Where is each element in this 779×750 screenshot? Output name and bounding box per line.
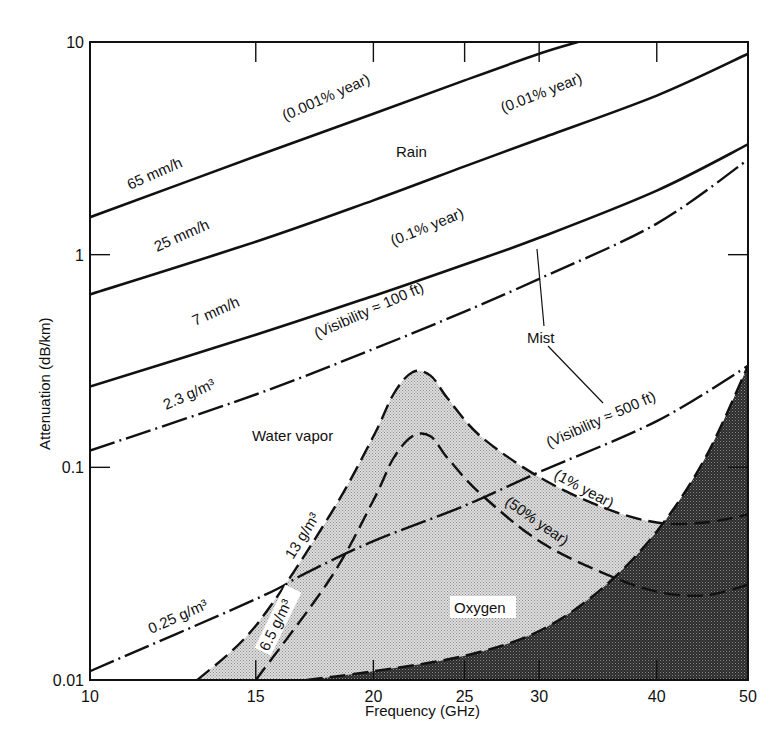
series-line-rain-0 <box>90 42 578 217</box>
label-visibility-500ft: (Visibility ≈ 500 ft) <box>543 387 658 451</box>
x-tick-label: 15 <box>247 688 265 705</box>
attenuation-chart: 101520253040500.010.1110 65 mm/h (0.001%… <box>0 0 779 750</box>
label-025gm3: 0.25 g/m³ <box>145 595 210 636</box>
y-tick-label: 10 <box>66 34 84 51</box>
x-tick-label: 40 <box>648 688 666 705</box>
label-rain: Rain <box>396 143 427 160</box>
label-25mmh: 25 mm/h <box>151 215 211 254</box>
label-23gm3: 2.3 g/m³ <box>160 375 217 413</box>
label-7mmh: 7 mm/h <box>189 293 242 329</box>
y-axis-title: Attenuation (dB/km) <box>36 317 53 450</box>
series-line-rain-1 <box>90 54 748 295</box>
mist-leader-upper <box>537 249 544 326</box>
x-tick-label: 10 <box>81 688 99 705</box>
label-01-year: (0.1% year) <box>388 204 466 249</box>
label-water-vapor: Water vapor <box>252 427 333 444</box>
y-tick-label: 0.01 <box>53 672 84 689</box>
mist-leader-lower <box>548 346 603 403</box>
label-001-year: (0.01% year) <box>498 69 584 116</box>
label-oxygen: Oxygen <box>454 599 506 616</box>
x-axis-title: Frequency (GHz) <box>365 702 480 719</box>
x-tick-label: 30 <box>530 688 548 705</box>
x-tick-label: 50 <box>739 688 757 705</box>
label-mist: Mist <box>527 329 555 346</box>
label-0001-year: (0.001% year) <box>279 70 372 124</box>
y-tick-label: 1 <box>75 247 84 264</box>
y-tick-label: 0.1 <box>62 459 84 476</box>
